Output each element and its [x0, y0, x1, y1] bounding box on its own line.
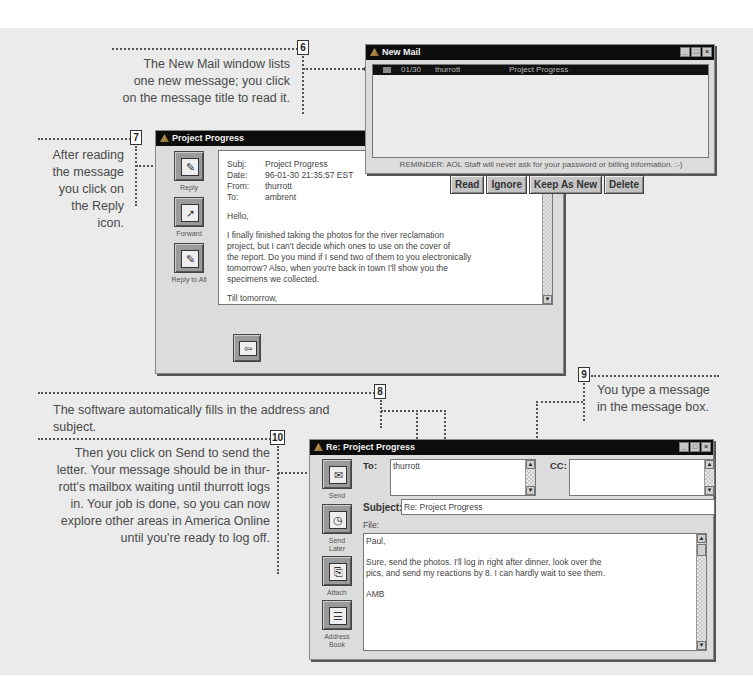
callout-7-number: 7	[130, 130, 142, 145]
to-label: To:	[363, 460, 377, 471]
new-mail-list[interactable]: 01/30 thurrott Project Progress	[372, 64, 709, 158]
ignore-button[interactable]: Ignore	[486, 175, 527, 194]
forward-arrow-icon: ➚	[181, 204, 199, 222]
next-arrow-icon: ⇦	[239, 341, 257, 356]
callout-8-leader	[38, 392, 375, 394]
cc-scrollbar[interactable]: ▲ ▼	[704, 460, 714, 495]
callout-8-vline	[380, 400, 382, 428]
attach-icon: ⎘	[329, 563, 347, 581]
scroll-down-arrow-icon[interactable]: ▼	[526, 486, 535, 495]
scroll-up-arrow-icon[interactable]: ▲	[705, 460, 714, 469]
send-later-label: Send Later	[317, 537, 357, 553]
send-label: Send	[317, 492, 357, 500]
next-button[interactable]: ⇦	[233, 334, 261, 362]
callout-6-leader	[112, 48, 298, 50]
callout-7-leader	[38, 138, 131, 140]
clock-icon: ◷	[329, 511, 347, 529]
callout-7-vline	[135, 146, 137, 206]
scroll-down-arrow-icon[interactable]: ▼	[697, 641, 706, 650]
callout-6-vline	[302, 56, 304, 114]
minimize-icon[interactable]: _	[679, 442, 689, 452]
scroll-down-arrow-icon[interactable]: ▼	[543, 295, 552, 304]
address-book-label: Address Book	[317, 633, 357, 649]
reply-button[interactable]: ✎	[174, 151, 204, 181]
reply-all-pencil-icon: ✎	[181, 250, 199, 268]
maximize-icon[interactable]: □	[690, 442, 700, 452]
reply-label: Reply	[169, 184, 209, 192]
send-later-button[interactable]: ◷	[322, 504, 352, 534]
reminder-text: REMINDER: AOL Staff will never ask for y…	[366, 160, 716, 169]
scroll-down-arrow-icon[interactable]: ▼	[705, 486, 714, 495]
subject-field[interactable]: Re: Project Progress	[401, 499, 715, 515]
message-list-row[interactable]: 01/30 thurrott Project Progress	[373, 65, 708, 75]
callout-10-vline	[277, 446, 279, 574]
subject-label: Subject:	[363, 502, 402, 513]
attach-button[interactable]: ⎘	[322, 556, 352, 586]
callout-7-text: After reading the message you click on t…	[40, 147, 124, 232]
address-book-button[interactable]: ☰	[322, 600, 352, 630]
reply-all-button[interactable]: ✎	[174, 243, 204, 273]
delete-button[interactable]: Delete	[604, 175, 644, 194]
compose-titlebar[interactable]: Re: Project Progress _ □ ×	[310, 440, 713, 455]
message-body-field[interactable]: Paul, Sure, send the photos. I'll log in…	[363, 533, 707, 651]
reply-pencil-icon: ✎	[181, 158, 199, 176]
callout-9-branch	[536, 401, 583, 403]
callout-9-number: 9	[578, 367, 590, 382]
scroll-up-arrow-icon[interactable]: ▲	[697, 534, 706, 543]
compose-paragraph: Sure, send the photos. I'll log in right…	[366, 557, 704, 579]
forward-button[interactable]: ➚	[174, 197, 204, 227]
aol-triangle-icon	[314, 443, 323, 451]
to-scrollbar[interactable]: ▲ ▼	[525, 460, 535, 495]
callout-6-text: The New Mail window lists one new messag…	[110, 56, 290, 107]
forward-label: Forward	[169, 230, 209, 238]
window-controls: _ □ ×	[680, 47, 712, 57]
message-paragraph: I finally finished taking the photos for…	[227, 230, 544, 285]
scroll-thumb[interactable]	[697, 544, 706, 556]
callout-8-text: The software automatically fills in the …	[53, 402, 373, 436]
attach-label: Attach	[317, 589, 357, 597]
callout-9-text: You type a message in the message box.	[597, 382, 747, 416]
cc-label: CC:	[550, 460, 567, 471]
close-icon[interactable]: ×	[701, 442, 711, 452]
keep-as-new-button[interactable]: Keep As New	[529, 175, 602, 194]
send-envelope-icon: ✉	[329, 466, 347, 484]
to-field[interactable]: thurrott ▲ ▼	[390, 459, 536, 496]
callout-8-number: 8	[374, 384, 386, 399]
cc-field[interactable]: ▲ ▼	[569, 459, 715, 496]
aol-triangle-icon	[160, 134, 169, 142]
read-button[interactable]: Read	[450, 175, 484, 194]
compose-window: Re: Project Progress _ □ × ✉ Send ◷ Send…	[309, 439, 714, 660]
new-mail-titlebar[interactable]: New Mail _ □ ×	[366, 45, 714, 60]
close-icon[interactable]: ×	[702, 47, 712, 57]
aol-triangle-icon	[370, 48, 379, 56]
address-book-icon: ☰	[329, 607, 347, 625]
callout-10-text: Then you click on Send to send the lette…	[40, 445, 270, 547]
reply-all-label: Reply to All	[169, 276, 209, 284]
callout-9-vline	[583, 383, 585, 421]
maximize-icon[interactable]: □	[691, 47, 701, 57]
callout-9-leader	[591, 375, 719, 377]
callout-6-number: 6	[297, 40, 309, 55]
callout-10-number: 10	[270, 430, 285, 445]
scroll-up-arrow-icon[interactable]: ▲	[526, 460, 535, 469]
message-scrollbar[interactable]: ▲ ▼	[696, 534, 706, 650]
window-controls: _ □ ×	[679, 442, 711, 452]
callout-6-pointer	[303, 68, 367, 70]
send-button[interactable]: ✉	[322, 459, 352, 489]
callout-10-leader	[38, 438, 271, 440]
minimize-icon[interactable]: _	[680, 47, 690, 57]
callout-8-branch	[381, 410, 446, 412]
new-mail-button-bar: Read Ignore Keep As New Delete	[450, 175, 644, 194]
file-label: File:	[363, 520, 379, 531]
envelope-icon	[383, 67, 391, 73]
new-mail-window: New Mail _ □ × 01/30 thurrott Project Pr…	[365, 44, 715, 174]
